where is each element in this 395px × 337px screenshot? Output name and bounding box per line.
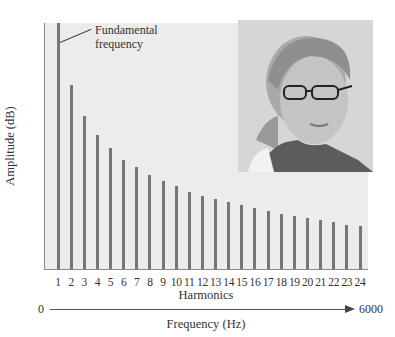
bar-harmonic-9 [162,181,165,269]
arrow-right-icon [345,305,355,313]
bar-harmonic-24 [359,226,362,269]
bar-harmonic-15 [240,205,243,269]
y-axis-line [44,23,45,270]
bar-harmonic-3 [83,116,86,269]
bar-harmonic-21 [319,220,322,269]
bar-harmonic-7 [135,167,138,269]
portrait-photo-icon [238,20,373,172]
x-axis-label: Harmonics [0,288,395,303]
bar-harmonic-22 [332,222,335,269]
bar-harmonic-5 [109,148,112,269]
y-axis-label: Amplitude (dB) [3,106,18,186]
x-tick-label: 24 [350,276,370,288]
annotation-fundamental: Fundamental frequency [95,23,158,51]
frequency-start-label: 0 [38,302,44,317]
bar-harmonic-16 [253,208,256,269]
frequency-end-label: 6000 [359,302,383,317]
bar-harmonic-19 [293,216,296,269]
bar-harmonic-6 [122,160,125,269]
bar-harmonic-20 [306,218,309,269]
bar-harmonic-12 [201,196,204,269]
bar-harmonic-23 [345,225,348,269]
annotation-line-2: frequency [95,37,158,51]
bar-harmonic-13 [214,199,217,269]
x-axis-line [44,269,368,270]
portrait-photo [238,20,373,172]
bar-harmonic-2 [70,85,73,269]
bar-harmonic-8 [148,175,151,269]
bar-harmonic-10 [175,186,178,269]
annotation-line-1: Fundamental [95,23,158,37]
frequency-axis-label: Frequency (Hz) [0,317,395,332]
bar-harmonic-11 [188,192,191,269]
bar-harmonic-17 [267,211,270,269]
frequency-axis-line [50,309,346,310]
bar-harmonic-14 [227,202,230,269]
bar-harmonic-18 [280,214,283,269]
bar-harmonic-4 [96,135,99,269]
bar-harmonic-1 [57,23,60,269]
